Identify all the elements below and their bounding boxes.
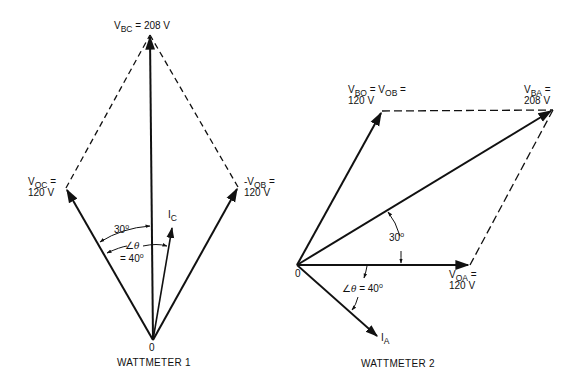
label-v-ba: VBA =208 V bbox=[524, 84, 551, 106]
angle-value-theta: = 40o bbox=[120, 253, 144, 264]
phasor-v-bc bbox=[150, 37, 153, 340]
phasor-v-ba bbox=[297, 111, 551, 265]
phasor-v-oc bbox=[67, 190, 153, 340]
label-i-c: IC bbox=[168, 209, 177, 220]
label-v-oa: VOA =120 V bbox=[449, 269, 477, 291]
label-i-a: IA bbox=[381, 332, 389, 343]
phasor-v-bo bbox=[297, 113, 381, 265]
origin-label: 0 bbox=[295, 268, 301, 279]
wattmeter-2-diagram bbox=[297, 110, 553, 336]
angle-label-30: 30o bbox=[114, 224, 129, 235]
label-v-bc: VBC = 208 V bbox=[114, 20, 170, 31]
caption-wattmeter-1: WATTMETER 1 bbox=[117, 357, 191, 368]
wattmeter-1-diagram bbox=[66, 35, 238, 340]
angle-label-theta: ∠θ bbox=[125, 240, 139, 251]
origin-label: 0 bbox=[149, 342, 155, 353]
angle-label-theta: ∠θ = 40o bbox=[342, 283, 383, 294]
dashed-edge-right bbox=[470, 110, 553, 265]
label-v-bo: VBO = VOB =120 V bbox=[348, 84, 406, 106]
label-neg-v-ob: -VOB =120 V bbox=[244, 176, 275, 198]
dashed-edge-left bbox=[66, 35, 150, 188]
angle-label-30: 30o bbox=[389, 232, 404, 243]
dashed-edge-right bbox=[150, 35, 238, 187]
phasor-diagrams bbox=[0, 0, 580, 389]
label-v-oc: VOC =120 V bbox=[28, 176, 56, 198]
caption-wattmeter-2: WATTMETER 2 bbox=[361, 358, 435, 369]
dashed-edge-top bbox=[382, 110, 553, 111]
